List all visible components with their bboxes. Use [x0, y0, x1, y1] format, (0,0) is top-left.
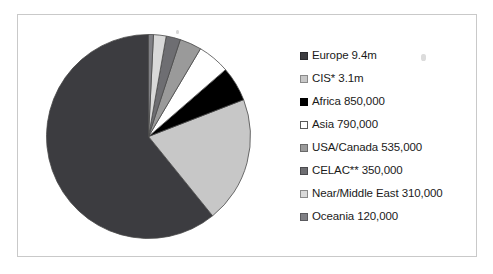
- legend-swatch-near-middle-east: [300, 190, 308, 198]
- legend-item-label: Near/Middle East 310,000: [312, 187, 443, 200]
- scan-speck: [176, 30, 179, 34]
- legend-swatch-oceania: [300, 213, 308, 221]
- legend-item: CIS* 3.1m: [300, 67, 478, 90]
- legend-item-label: CELAC** 350,000: [312, 164, 403, 177]
- legend-item-label: Asia 790,000: [312, 118, 378, 131]
- legend-item-label: Oceania 120,000: [312, 210, 398, 223]
- legend-item: USA/Canada 535,000: [300, 136, 478, 159]
- legend-swatch-usa-canada: [300, 144, 308, 152]
- legend-item: Asia 790,000: [300, 113, 478, 136]
- legend-item-label: Europe 9.4m: [312, 49, 377, 62]
- pie-chart: [45, 33, 252, 240]
- legend-swatch-europe: [300, 52, 308, 60]
- legend-item: Europe 9.4m: [300, 44, 478, 67]
- legend-swatch-celac: [300, 167, 308, 175]
- legend-swatch-cis: [300, 75, 308, 83]
- legend-item: Oceania 120,000: [300, 205, 478, 228]
- chart-frame: Europe 9.4mCIS* 3.1mAfrica 850,000Asia 7…: [17, 14, 477, 257]
- legend-swatch-africa: [300, 98, 308, 106]
- legend-item-label: Africa 850,000: [312, 95, 385, 108]
- legend-swatch-asia: [300, 121, 308, 129]
- legend-item: Africa 850,000: [300, 90, 478, 113]
- scan-speck: [421, 54, 426, 61]
- legend-item-label: CIS* 3.1m: [312, 72, 364, 85]
- legend-item: CELAC** 350,000: [300, 159, 478, 182]
- legend-item-label: USA/Canada 535,000: [312, 141, 422, 154]
- pie-chart-area: Europe 9.4mCIS* 3.1mAfrica 850,000Asia 7…: [18, 15, 476, 256]
- chart-legend: Europe 9.4mCIS* 3.1mAfrica 850,000Asia 7…: [300, 44, 478, 228]
- legend-item: Near/Middle East 310,000: [300, 182, 478, 205]
- pie-slices: [47, 35, 251, 239]
